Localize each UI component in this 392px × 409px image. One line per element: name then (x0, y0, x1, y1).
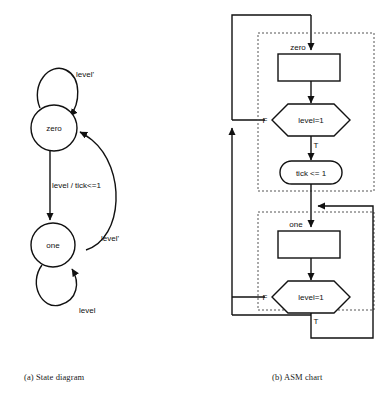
asm-true-label-one: T (314, 317, 319, 326)
asm-true-label-zero: T (314, 141, 319, 150)
transition-label-one-to-zero: level' (101, 234, 119, 243)
transition-one-self-arc (36, 265, 76, 306)
figure-canvas: zero one level' level / tick<=1 level' l… (0, 0, 392, 409)
transition-label-zero-self: level' (76, 70, 94, 79)
transition-label-one-self: level (79, 306, 96, 315)
asm-decision-label-one: level=1 (298, 293, 324, 302)
asm-output-label-tick: tick <= 1 (296, 169, 327, 178)
transition-one-to-zero-arc (80, 132, 116, 250)
asm-state-label-zero: zero (290, 43, 306, 52)
caption-state-diagram: (a) State diagram (24, 372, 84, 382)
asm-true-loop-one-path (311, 206, 373, 338)
asm-state-label-one: one (289, 220, 303, 229)
state-label-zero: zero (46, 124, 62, 133)
asm-state-box-one (278, 231, 340, 258)
asm-false-label-zero: F (263, 116, 268, 125)
transition-label-zero-to-one: level / tick<=1 (52, 181, 101, 190)
caption-asm-chart: (b) ASM chart (272, 372, 322, 382)
asm-decision-label-zero: level=1 (298, 116, 324, 125)
state-label-one: one (46, 241, 60, 250)
asm-false-label-one: F (263, 293, 268, 302)
state-diagram-group: zero one level' level / tick<=1 level' l… (31, 68, 119, 315)
asm-state-box-zero (278, 54, 340, 81)
asm-chart-group: zero level=1 F T tick <= 1 one (232, 15, 374, 338)
figure-root: zero one level' level / tick<=1 level' l… (0, 0, 392, 409)
